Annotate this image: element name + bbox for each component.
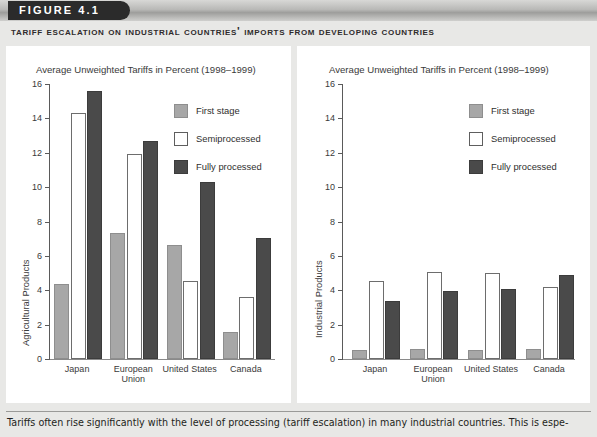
legend-swatch-first xyxy=(469,104,483,118)
legend-label: Semiprocessed xyxy=(491,133,556,144)
legend-swatch-semi xyxy=(469,132,483,146)
y-axis-tick: 14 xyxy=(338,118,343,119)
y-axis-tick: 10 xyxy=(45,187,50,188)
y-axis-tick: 6 xyxy=(45,256,50,257)
y-axis-tick: 8 xyxy=(45,222,50,223)
legend-swatch-semi xyxy=(174,132,188,146)
bar-fully xyxy=(143,141,158,359)
bar-fully xyxy=(385,301,400,359)
y-axis-tick: 2 xyxy=(338,325,343,326)
bar-first xyxy=(526,349,541,359)
y-axis-label-right: Industrial Products xyxy=(313,260,324,338)
bar-first xyxy=(54,284,69,359)
y-axis-tick-label: 2 xyxy=(330,320,335,330)
y-axis-tick: 12 xyxy=(338,153,343,154)
bar-fully xyxy=(443,291,458,359)
bar-fully xyxy=(87,91,102,359)
bar-fully xyxy=(200,182,215,359)
bar-fully xyxy=(559,275,574,359)
y-axis-tick-label: 0 xyxy=(37,354,42,364)
figure-subtitle: Tariff Escalation on Industrial Countrie… xyxy=(11,25,591,37)
y-axis-tick: 8 xyxy=(338,222,343,223)
bar-semi xyxy=(369,281,384,359)
y-axis-tick-label: 14 xyxy=(32,113,42,123)
legend-label: Semiprocessed xyxy=(196,133,261,144)
bar-first xyxy=(468,350,483,359)
y-axis-tick: 4 xyxy=(45,290,50,291)
legend-label: Fully processed xyxy=(491,161,557,172)
y-axis-tick-label: 8 xyxy=(330,217,335,227)
legend-swatch-fully xyxy=(174,160,188,174)
y-axis-label-left: Agricultural Products xyxy=(20,260,31,347)
y-axis-tick-label: 12 xyxy=(32,148,42,158)
bar-semi xyxy=(543,287,558,359)
bar-semi xyxy=(239,297,254,359)
bar-semi xyxy=(427,272,442,359)
bar-first xyxy=(410,349,425,359)
y-axis-tick: 2 xyxy=(45,325,50,326)
bar-semi xyxy=(127,154,142,359)
chart-panel-agricultural: Average Unweighted Tariffs in Percent (1… xyxy=(6,46,291,403)
y-axis-tick-label: 6 xyxy=(37,251,42,261)
y-axis-tick-label: 16 xyxy=(32,79,42,89)
chart-title-right: Average Unweighted Tariffs in Percent (1… xyxy=(329,64,549,75)
y-axis-tick-label: 10 xyxy=(325,182,335,192)
legend-label: Fully processed xyxy=(196,161,262,172)
y-axis-tick-label: 0 xyxy=(330,354,335,364)
y-axis-tick: 16 xyxy=(338,84,343,85)
bar-first xyxy=(167,245,182,359)
y-axis-tick-label: 10 xyxy=(32,182,42,192)
y-axis-tick: 4 xyxy=(338,290,343,291)
bar-semi xyxy=(71,113,86,359)
y-axis-tick: 0 xyxy=(338,359,343,360)
y-axis-tick-label: 14 xyxy=(325,113,335,123)
y-axis-tick-label: 4 xyxy=(330,285,335,295)
y-axis-tick: 10 xyxy=(338,187,343,188)
caption-divider xyxy=(6,411,591,412)
bar-fully xyxy=(256,238,271,359)
bar-group-left xyxy=(50,84,275,359)
bar-semi xyxy=(485,273,500,359)
y-axis-tick-label: 2 xyxy=(37,320,42,330)
figure-number-label: FIGURE 4.1 xyxy=(19,4,100,16)
legend-swatch-first xyxy=(174,104,188,118)
legend-label: First stage xyxy=(196,105,240,116)
x-axis-category-label: Canada xyxy=(514,364,584,374)
plot-area-right: 0246810121416 xyxy=(342,84,575,360)
bar-first xyxy=(223,332,238,359)
y-axis-tick: 16 xyxy=(45,84,50,85)
legend-swatch-fully xyxy=(469,160,483,174)
y-axis-tick: 0 xyxy=(45,359,50,360)
y-axis-tick: 14 xyxy=(45,118,50,119)
y-axis-tick-label: 6 xyxy=(330,251,335,261)
y-axis-tick: 12 xyxy=(45,153,50,154)
legend-label: First stage xyxy=(491,105,535,116)
figure-caption: Tariffs often rise significantly with th… xyxy=(7,417,590,429)
bar-fully xyxy=(501,289,516,359)
y-axis-tick: 6 xyxy=(338,256,343,257)
bar-first xyxy=(352,350,367,359)
chart-title-left: Average Unweighted Tariffs in Percent (1… xyxy=(36,64,256,75)
y-axis-tick-label: 12 xyxy=(325,148,335,158)
chart-panel-industrial: Average Unweighted Tariffs in Percent (1… xyxy=(297,46,590,403)
y-axis-tick-label: 16 xyxy=(325,79,335,89)
bar-semi xyxy=(183,281,198,359)
y-axis-tick-label: 4 xyxy=(37,285,42,295)
bar-first xyxy=(110,233,125,359)
x-axis-category-label: Canada xyxy=(212,364,280,374)
y-axis-tick-label: 8 xyxy=(37,217,42,227)
figure-banner: FIGURE 4.1 xyxy=(0,0,597,21)
plot-area-left: 0246810121416 xyxy=(49,84,275,360)
bar-group-right xyxy=(343,84,575,359)
